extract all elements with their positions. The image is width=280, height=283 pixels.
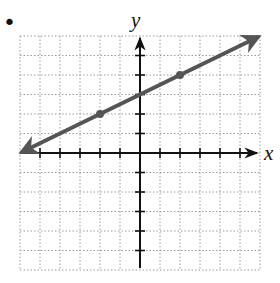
x-axis-label: x	[263, 141, 274, 165]
y-axis-label: y	[129, 8, 141, 32]
coordinate-plane: • x y	[0, 0, 280, 283]
bullet-marker: •	[3, 10, 16, 35]
data-point	[96, 110, 104, 118]
data-point	[176, 71, 184, 79]
